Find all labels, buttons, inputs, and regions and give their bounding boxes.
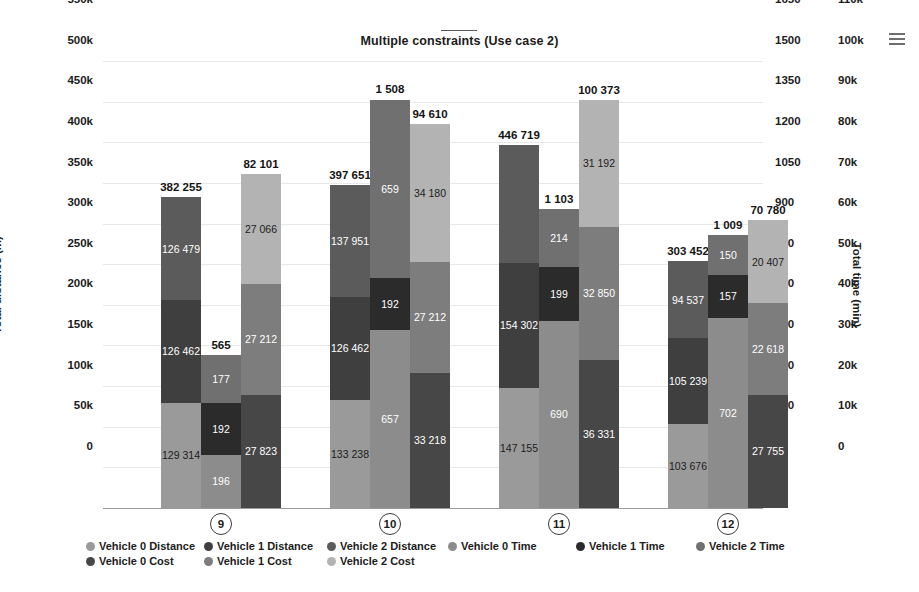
bar-total-label: 382 255: [160, 181, 202, 193]
bar-time[interactable]: 690199214: [539, 209, 579, 508]
bar-segment-label: 150: [719, 250, 737, 261]
bar-segment[interactable]: 157: [708, 275, 748, 318]
y-tick-distance: 100k: [67, 360, 93, 372]
bar-segment-label: 177: [212, 374, 230, 385]
legend-item-label: Vehicle 0 Distance: [99, 539, 195, 554]
bar-segment[interactable]: 133 238: [330, 400, 370, 508]
bar-total-label: 1 103: [545, 193, 574, 205]
legend-item[interactable]: Vehicle 0 Time: [448, 539, 537, 554]
axis-baseline: [103, 508, 763, 509]
bar-segment[interactable]: 126 462: [161, 300, 201, 403]
legend-item[interactable]: Vehicle 2 Cost: [327, 554, 415, 569]
bar-segment[interactable]: 137 951: [330, 185, 370, 297]
bar-segment[interactable]: [499, 145, 539, 263]
bar-total-label: 565: [211, 339, 230, 351]
bar-segment[interactable]: 33 218: [410, 373, 450, 508]
bar-segment[interactable]: 105 239: [668, 338, 708, 424]
legend-color-swatch-icon: [576, 542, 585, 551]
bar-segment-label: 192: [381, 299, 399, 310]
bar-segment-label: 129 314: [162, 450, 200, 461]
y-tick-cost: 10k: [838, 400, 857, 412]
y-tick-distance: 450k: [67, 75, 93, 87]
bar-segment-label: 157: [719, 291, 737, 302]
bar-segment[interactable]: 31 192: [579, 100, 619, 227]
legend-item[interactable]: Vehicle 0 Distance: [86, 539, 195, 554]
bar-segment[interactable]: 27 755: [748, 395, 788, 508]
bar-segment[interactable]: 32 850: [579, 227, 619, 360]
y-axis-distance-ticks: 050k100k150k200k250k300k350k400k450k500k…: [35, 0, 93, 447]
bar-distance[interactable]: 129 314126 462126 479: [161, 197, 201, 508]
x-axis-category-11[interactable]: 11: [548, 513, 570, 535]
y-axis-distance-title: Total distance (m): [0, 236, 3, 334]
bar-segment-label: 199: [550, 289, 568, 300]
bar-segment[interactable]: 34 180: [410, 124, 450, 263]
x-axis-category-10[interactable]: 10: [379, 513, 401, 535]
bar-segment[interactable]: 196: [201, 455, 241, 508]
bar-segment[interactable]: 36 331: [579, 360, 619, 508]
bar-segment[interactable]: 659: [370, 100, 410, 279]
bar-segment[interactable]: 129 314: [161, 403, 201, 508]
bar-segment[interactable]: 126 462: [330, 297, 370, 400]
legend-color-swatch-icon: [86, 557, 95, 566]
bar-time[interactable]: 196192177: [201, 355, 241, 508]
x-axis-category-9[interactable]: 9: [210, 513, 232, 535]
legend-item[interactable]: Vehicle 2 Distance: [327, 539, 436, 554]
y-tick-distance: 200k: [67, 278, 93, 290]
bar-segment[interactable]: 199: [539, 267, 579, 321]
bar-time[interactable]: 657192659: [370, 99, 410, 508]
bar-distance[interactable]: 147 155154 302: [499, 145, 539, 508]
plot-area: 382 255129 314126 462126 479565196192177…: [103, 61, 763, 508]
bar-segment[interactable]: 22 618: [748, 303, 788, 395]
bar-distance[interactable]: 133 238126 462137 951: [330, 185, 370, 508]
bar-segment-label: 214: [550, 233, 568, 244]
bar-total-label: 70 780: [750, 204, 785, 216]
bar-segment[interactable]: 27 212: [410, 262, 450, 373]
bar-segment[interactable]: 126 479: [161, 197, 201, 300]
bar-segment-label: 27 066: [245, 224, 277, 235]
bar-distance[interactable]: 103 676105 23994 537: [668, 261, 708, 508]
legend-item[interactable]: Vehicle 1 Distance: [204, 539, 313, 554]
bar-segment-label: 702: [719, 408, 737, 419]
bar-group: 446 719147 155154 3021 103690199214100 3…: [499, 61, 619, 508]
bar-segment[interactable]: 150: [708, 235, 748, 276]
bar-segment[interactable]: 657: [370, 330, 410, 508]
y-tick-cost: 20k: [838, 360, 857, 372]
legend-color-swatch-icon: [696, 542, 705, 551]
legend-item[interactable]: Vehicle 1 Time: [576, 539, 665, 554]
bar-segment[interactable]: 177: [201, 355, 241, 403]
legend-item[interactable]: Vehicle 0 Cost: [86, 554, 174, 569]
bar-segment-label: 126 479: [162, 244, 200, 255]
y-tick-distance: 50k: [74, 400, 93, 412]
bar-segment[interactable]: 103 676: [668, 424, 708, 508]
bar-segment[interactable]: 192: [201, 403, 241, 455]
y-axis-cost-ticks: 010k20k30k40k50k60k70k80k90k100k110k: [838, 0, 878, 447]
bar-segment[interactable]: 20 407: [748, 220, 788, 303]
bar-group: 303 452103 676105 23994 5371 00970215715…: [668, 61, 788, 508]
bar-segment[interactable]: 690: [539, 321, 579, 508]
bar-total-label: 446 719: [498, 129, 540, 141]
bar-cost[interactable]: 36 33132 85031 192: [579, 100, 619, 508]
bar-cost[interactable]: 27 82327 21227 066: [241, 174, 281, 508]
bar-segment[interactable]: 27 823: [241, 395, 281, 508]
legend-item[interactable]: Vehicle 2 Time: [696, 539, 785, 554]
bar-segment[interactable]: 27 066: [241, 174, 281, 284]
x-axis-category-12[interactable]: 12: [717, 513, 739, 535]
bar-segment-label: 105 239: [669, 376, 707, 387]
bar-segment[interactable]: 94 537: [668, 261, 708, 338]
legend-color-swatch-icon: [204, 557, 213, 566]
bar-cost[interactable]: 27 75522 61820 407: [748, 220, 788, 508]
hamburger-menu-icon[interactable]: [889, 33, 905, 45]
bar-segment[interactable]: 27 212: [241, 284, 281, 395]
bar-segment[interactable]: 154 302: [499, 263, 539, 388]
y-tick-distance: 400k: [67, 116, 93, 128]
bar-segment[interactable]: 147 155: [499, 388, 539, 508]
bar-total-label: 1 508: [376, 83, 405, 95]
bar-time[interactable]: 702157150: [708, 235, 748, 508]
legend-item[interactable]: Vehicle 1 Cost: [204, 554, 292, 569]
bar-segment-label: 126 462: [331, 343, 369, 354]
bar-cost[interactable]: 33 21827 21234 180: [410, 124, 450, 508]
bar-segment[interactable]: 192: [370, 278, 410, 330]
bar-segment[interactable]: 702: [708, 318, 748, 508]
bar-segment-label: 154 302: [500, 320, 538, 331]
bar-segment[interactable]: 214: [539, 209, 579, 267]
